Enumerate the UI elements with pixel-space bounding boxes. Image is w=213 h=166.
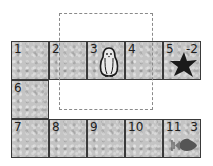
cell-number: 9 (90, 120, 98, 134)
cell-number: 1 (14, 42, 22, 56)
cell-8[interactable]: 8 (49, 119, 87, 158)
cell-3[interactable]: 3 (87, 41, 125, 80)
cell-9[interactable]: 9 (87, 119, 125, 158)
fish-icon[interactable] (170, 137, 198, 154)
cell-number: 11 (166, 120, 181, 134)
cell-number: 2 (52, 42, 60, 56)
cell-2[interactable]: 2 (49, 41, 87, 80)
penguin-icon[interactable] (99, 46, 119, 78)
cell-11[interactable]: 11 3 (163, 119, 201, 158)
cell-4[interactable]: 4 (125, 41, 163, 80)
cell-number: 7 (14, 120, 22, 134)
cell-6[interactable]: 6 (11, 80, 49, 119)
cell-7[interactable]: 7 (11, 119, 49, 158)
cell-number: 4 (128, 42, 136, 56)
cell-1[interactable]: 1 (11, 41, 49, 80)
star-icon[interactable] (169, 51, 198, 78)
cell-number: 6 (14, 81, 22, 95)
cell-number: 3 (90, 42, 98, 56)
cell-number: 8 (52, 120, 60, 134)
cell-number: 10 (128, 120, 143, 134)
cell-value: 3 (190, 120, 198, 134)
cell-5[interactable]: 5 -2 (163, 41, 201, 80)
cell-10[interactable]: 10 (125, 119, 163, 158)
game-board: 1 2 3 4 5 -2 6 7 8 9 10 11 3 (0, 0, 213, 166)
